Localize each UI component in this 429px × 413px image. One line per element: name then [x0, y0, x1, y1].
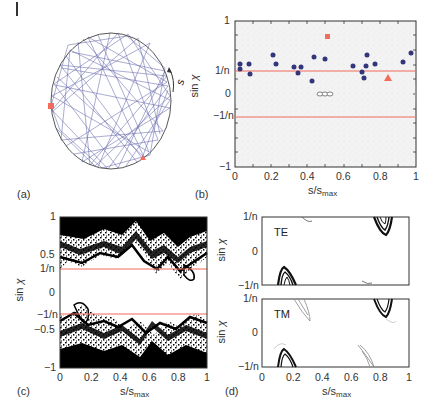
d-xlabel: s/smax	[322, 385, 351, 399]
d-tm-ytick-0: 0	[252, 326, 258, 338]
panel-label-c: (c)	[17, 385, 30, 397]
d-xtick-04: 0.4	[315, 371, 330, 383]
plot-c	[60, 217, 207, 368]
b-ylabel: sin χ	[188, 74, 200, 97]
c-xlabel: s/smax	[120, 385, 149, 399]
c-xtick-08: 0.8	[171, 371, 186, 383]
c-ytick-1: 1	[50, 210, 56, 222]
d-tm-ylabel: sin χ	[215, 320, 227, 343]
start-square-marker-b	[325, 34, 330, 39]
d-tm-ytick-1n: 1/n	[243, 292, 258, 304]
c-ylabel: sin χ	[13, 278, 25, 301]
b-xtick-08: 0.8	[373, 170, 388, 182]
c-xtick-1: 1	[204, 371, 210, 383]
stable-island	[317, 92, 333, 96]
c-ytick-m1: −1	[44, 361, 56, 373]
b-ytick-m1n: −1/n	[213, 109, 234, 121]
panel-label-d: (d)	[225, 385, 238, 397]
d-te-ylabel: sin χ	[215, 238, 227, 261]
b-xlabel: s/smax	[308, 184, 337, 198]
billiard-cavity	[0, 0, 215, 200]
d-xtick-02: 0.2	[286, 371, 301, 383]
b-xtick-06: 0.6	[336, 170, 351, 182]
c-xtick-04: 0.4	[113, 371, 128, 383]
c-ytick-m1n: −1/n	[37, 308, 58, 320]
b-ytick-0: 0	[225, 87, 231, 99]
tm-title: TM	[274, 308, 290, 320]
b-xtick-04: 0.4	[300, 170, 315, 182]
d-xtick-0: 0	[259, 371, 265, 383]
c-ytick-0: 0	[49, 286, 55, 298]
d-xtick-1: 1	[406, 371, 412, 383]
ray-trajectories	[51, 33, 170, 169]
c-ytick-1n: 1/n	[40, 262, 55, 274]
b-xtick-1: 1	[413, 170, 419, 182]
b-xtick-02: 0.2	[264, 170, 279, 182]
b-xtick-0: 0	[232, 170, 238, 182]
d-te-ytick-1n: 1/n	[243, 210, 258, 222]
d-te-ytick-0: 0	[252, 245, 258, 257]
cavity-boundary	[51, 33, 171, 169]
panel-label-a: (a)	[17, 188, 30, 200]
panel-label-b: (b)	[195, 188, 208, 200]
d-xtick-06: 0.6	[344, 371, 359, 383]
plot-b	[235, 21, 416, 167]
d-tm-ytick-m1n: −1/n	[238, 360, 259, 372]
c-ytick-05: 0.5	[40, 248, 55, 260]
b-ytick-m1: −1	[219, 160, 231, 172]
b-ytick-1: 1	[224, 14, 230, 26]
c-xtick-0: 0	[57, 371, 63, 383]
d-xtick-08: 0.8	[373, 371, 388, 383]
te-title: TE	[274, 226, 288, 238]
d-te-ytick-m1n: −1/n	[238, 279, 259, 291]
start-square-marker	[48, 103, 54, 109]
b-ytick-1n: 1/n	[215, 64, 230, 76]
c-ytick-m05: −0.5	[34, 323, 55, 335]
c-xtick-06: 0.6	[142, 371, 157, 383]
c-xtick-02: 0.2	[84, 371, 99, 383]
